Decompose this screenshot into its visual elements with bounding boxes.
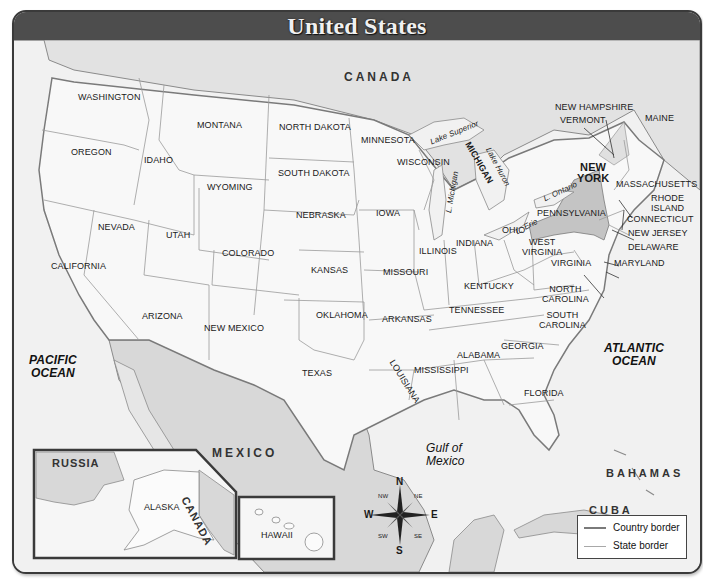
label-arizona: ARIZONA <box>142 311 183 321</box>
label-hawaii: HAWAII <box>261 530 293 540</box>
label-missouri: MISSOURI <box>383 267 428 277</box>
label-utah: UTAH <box>166 230 190 240</box>
label-north-dakota: NORTH DAKOTA <box>279 122 351 132</box>
compass-e: E <box>431 510 438 520</box>
label-tennessee: TENNESSEE <box>449 305 504 315</box>
map-frame: United States <box>12 10 702 574</box>
label-rhode-island: RHODEISLAND <box>651 193 684 213</box>
country-border-swatch <box>584 527 606 529</box>
label-kentucky: KENTUCKY <box>464 281 514 291</box>
label-illinois: ILLINOIS <box>419 246 457 256</box>
label-colorado: COLORADO <box>222 248 274 258</box>
label-iowa: IOWA <box>376 208 400 218</box>
label-wisconsin: WISCONSIN <box>397 157 450 167</box>
label-mexico: MEXICO <box>212 448 277 458</box>
compass-n: N <box>396 477 403 487</box>
label-pennsylvania: PENNSYLVANIA <box>537 208 606 218</box>
label-pacific-ocean: PACIFICOCEAN <box>29 354 77 380</box>
label-california: CALIFORNIA <box>51 261 106 271</box>
compass-w: W <box>364 510 374 520</box>
state-border-swatch <box>584 546 606 547</box>
label-indiana: INDIANA <box>456 238 493 248</box>
label-delaware: DELAWARE <box>628 242 679 252</box>
label-nebraska: NEBRASKA <box>296 210 346 220</box>
label-new-york: NEWYORK <box>577 162 609 184</box>
map-area: CANADA MEXICO RUSSIA CANADA BAHAMAS CUBA… <box>14 40 700 572</box>
label-cuba: CUBA <box>589 505 633 515</box>
label-mississippi: MISSISSIPPI <box>414 365 469 375</box>
label-vermont: VERMONT <box>560 115 606 125</box>
label-massachusetts: MASSACHUSETTS <box>616 179 697 189</box>
label-idaho: IDAHO <box>144 155 173 165</box>
map-legend: Country border State border <box>577 515 687 559</box>
label-wyoming: WYOMING <box>207 182 253 192</box>
label-north-carolina: NORTHCAROLINA <box>542 284 589 304</box>
label-gulf-of-mexico: Gulf ofMexico <box>426 442 465 468</box>
label-georgia: GEORGIA <box>501 341 544 351</box>
label-florida: FLORIDA <box>524 388 564 398</box>
label-south-carolina: SOUTHCAROLINA <box>539 310 586 330</box>
label-maryland: MARYLAND <box>614 258 665 268</box>
label-alaska: ALASKA <box>144 502 180 512</box>
label-kansas: KANSAS <box>311 265 348 275</box>
label-bahamas: BAHAMAS <box>606 468 683 478</box>
compass-nw: NW <box>378 491 388 501</box>
label-new-mexico: NEW MEXICO <box>204 323 264 333</box>
label-texas: TEXAS <box>302 368 332 378</box>
label-oklahoma: OKLAHOMA <box>316 310 368 320</box>
label-maine: MAINE <box>645 113 674 123</box>
label-russia: RUSSIA <box>52 458 100 468</box>
legend-state-border: State border <box>584 540 668 554</box>
label-nevada: NEVADA <box>98 222 135 232</box>
label-montana: MONTANA <box>197 120 242 130</box>
label-oregon: OREGON <box>71 147 112 157</box>
compass-ne: NE <box>414 491 423 501</box>
compass-s: S <box>396 546 403 556</box>
label-arkansas: ARKANSAS <box>382 314 432 324</box>
label-new-jersey: NEW JERSEY <box>628 228 688 238</box>
label-ohio: OHIO <box>502 225 525 235</box>
label-south-dakota: SOUTH DAKOTA <box>278 168 350 178</box>
label-washington: WASHINGTON <box>78 92 141 102</box>
title-bar: United States <box>14 12 700 40</box>
label-virginia: VIRGINIA <box>551 258 591 268</box>
label-minnesota: MINNESOTA <box>361 135 415 145</box>
label-atlantic-ocean: ATLANTICOCEAN <box>604 342 664 368</box>
label-connecticut: CONNECTICUT <box>627 214 694 224</box>
map-title: United States <box>287 13 426 39</box>
compass-se: SE <box>414 531 422 541</box>
label-west-virginia: WESTVIRGINIA <box>522 237 562 257</box>
label-alabama: ALABAMA <box>457 350 500 360</box>
compass-sw: SW <box>378 531 388 541</box>
label-canada: CANADA <box>344 72 414 82</box>
legend-country-border: Country border <box>584 522 680 536</box>
label-new-hampshire: NEW HAMPSHIRE <box>555 102 633 112</box>
